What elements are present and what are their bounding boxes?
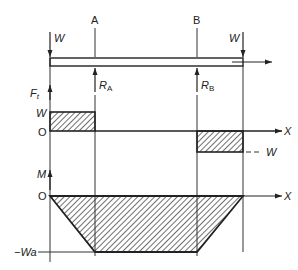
beam-diagram: A B W W RA RB Ft W O X W M O X −Wa	[0, 0, 298, 270]
shear-force-diagram: Ft W O X W	[30, 85, 292, 158]
bending-moment-diagram: M O X −Wa	[14, 168, 292, 258]
reaction-a-label: RA	[99, 79, 113, 93]
moment-origin-label: O	[38, 190, 47, 202]
diagram-svg: A B W W RA RB Ft W O X W M O X −Wa	[0, 0, 298, 270]
shear-axis-label: Ft	[30, 87, 40, 101]
moment-min-label: −Wa	[14, 246, 37, 258]
moment-trapezoid	[50, 196, 243, 252]
section-b-label: B	[193, 14, 200, 26]
section-a-label: A	[91, 14, 99, 26]
moment-axis-label: M	[37, 168, 47, 180]
reaction-b-label: RB	[201, 79, 214, 93]
shear-negative-block	[197, 131, 243, 152]
shear-positive-block	[50, 112, 95, 131]
moment-x-label: X	[283, 190, 292, 202]
shear-upper-label: W	[36, 107, 48, 119]
beam	[50, 58, 272, 66]
shear-x-label: X	[283, 125, 292, 137]
left-load-label: W	[54, 32, 66, 44]
shear-lower-label: W	[266, 146, 278, 158]
right-load-label: W	[229, 32, 241, 44]
shear-origin-label: O	[38, 126, 47, 138]
